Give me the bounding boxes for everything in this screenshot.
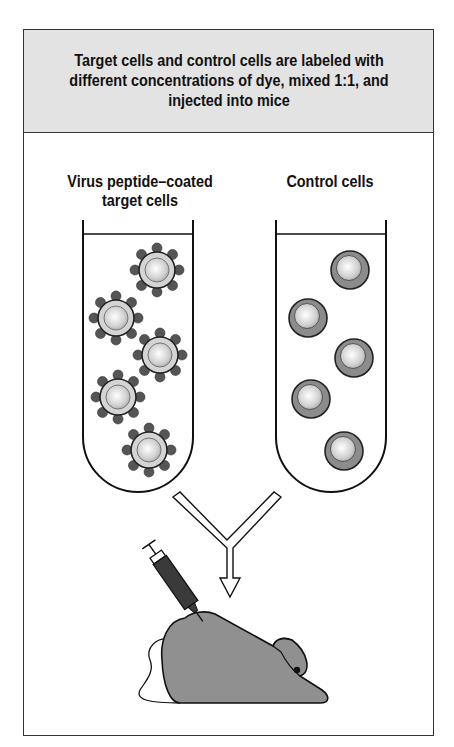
diagram-art bbox=[0, 0, 454, 747]
plain-cell bbox=[289, 299, 327, 337]
target-cells bbox=[89, 243, 187, 477]
merge-arrow-icon bbox=[173, 492, 281, 597]
plain-cell bbox=[335, 339, 373, 377]
control-cells bbox=[289, 251, 373, 470]
plain-cell bbox=[292, 380, 330, 418]
peptide-coated-cell bbox=[133, 328, 187, 382]
plain-cell bbox=[331, 251, 369, 289]
peptide-coated-cell bbox=[122, 423, 176, 477]
plain-cell bbox=[325, 432, 363, 470]
peptide-coated-cell bbox=[91, 370, 145, 424]
peptide-coated-cell bbox=[130, 243, 184, 297]
mouse-icon bbox=[139, 612, 328, 703]
peptide-coated-cell bbox=[89, 291, 143, 345]
